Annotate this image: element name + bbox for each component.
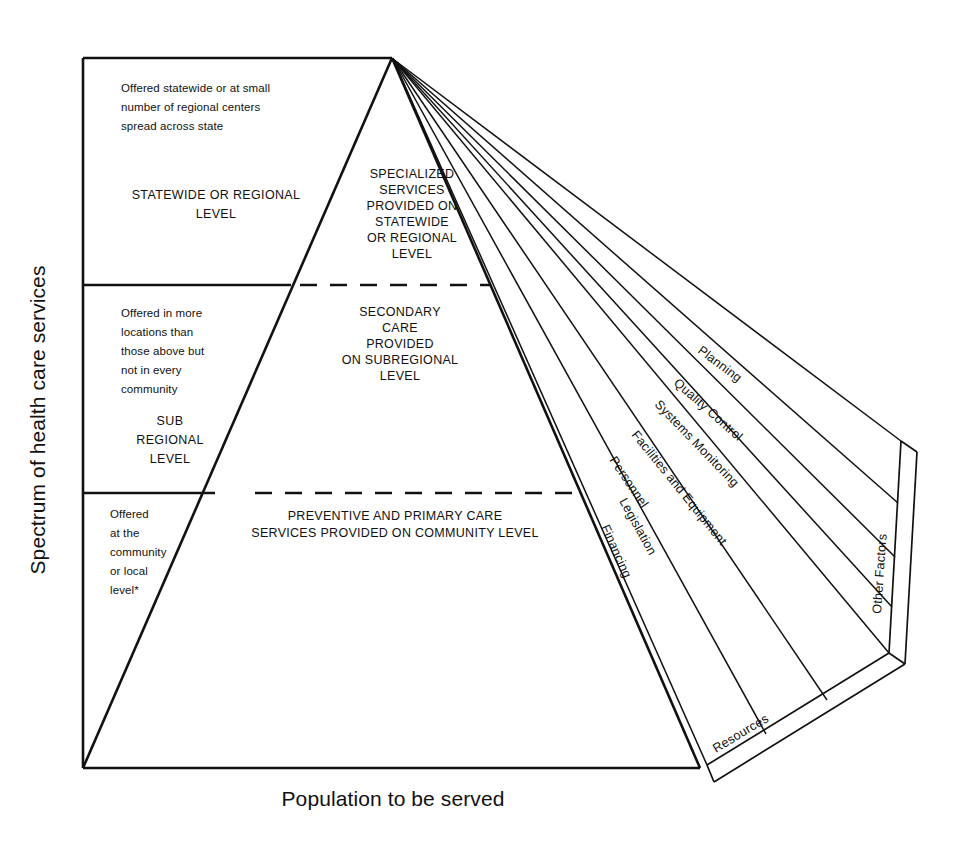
tier-statewide-core-line-4: STATEWIDE: [375, 215, 449, 229]
tier-statewide: Offered statewide or at small number of …: [121, 82, 457, 261]
pyramid-right-edge: [392, 58, 700, 768]
fan-ray-1: [393, 59, 901, 441]
spectrum-frame: [83, 58, 700, 768]
tier-statewide-level-line-2: LEVEL: [196, 207, 237, 221]
band-label-resources: Resources: [710, 711, 771, 755]
pyramid-fan-figure: Offered statewide or at small number of …: [0, 0, 971, 847]
other-factors-top-cap: [901, 441, 917, 452]
tier-subregional-desc-line-4: not in every: [121, 364, 182, 376]
tier-statewide-core-line-2: SERVICES: [379, 183, 444, 197]
tier-community-desc-line-2: at the: [110, 527, 139, 539]
resources-outer-edge: [714, 664, 905, 782]
tier-community-core-line-1: PREVENTIVE AND PRIMARY CARE: [288, 509, 503, 523]
fan-rays: [393, 59, 901, 765]
tier-subregional-core-line-5: LEVEL: [380, 369, 420, 383]
tier-statewide-core-line-1: SPECIALIZED: [370, 167, 455, 181]
tier-community-core-line-2: SERVICES PROVIDED ON COMMUNITY LEVEL: [251, 526, 538, 540]
tier-subregional-level-line-2: REGIONAL: [136, 433, 203, 447]
fan-ray-3: [393, 59, 895, 557]
fan-label-financing: Financing: [598, 523, 634, 581]
tier-subregional-core-line-4: ON SUBREGIONAL: [342, 353, 459, 367]
other-factors-outer-edge: [905, 452, 917, 664]
pyramid-outline: [83, 58, 700, 768]
fan-right-inner-edge: [889, 441, 901, 653]
tier-community-desc-line-4: or local: [110, 565, 148, 577]
pyramid-left-edge: [83, 58, 392, 768]
tier-subregional-desc-line-3: those above but: [121, 345, 205, 357]
diagram-root: Offered statewide or at small number of …: [0, 0, 971, 847]
tier-statewide-level-line-1: STATEWIDE OR REGIONAL: [132, 188, 301, 202]
tier-subregional-core-line-2: CARE: [382, 321, 418, 335]
tier-subregional-core-line-1: SECONDARY: [359, 305, 441, 319]
fan-ray-5: [393, 59, 889, 653]
x-axis-label: Population to be served: [282, 787, 505, 810]
fan-bottom-inner-edge: [707, 653, 889, 765]
tier-statewide-core-line-6: LEVEL: [392, 247, 432, 261]
tier-subregional-level-line-1: SUB: [157, 414, 184, 428]
tier-statewide-desc-line-3: spread across state: [121, 120, 223, 132]
tier-statewide-core-line-5: OR REGIONAL: [367, 231, 457, 245]
fan-sector-labels: Planning Quality Control Systems Monitor…: [598, 343, 745, 580]
tier-community-desc-line-1: Offered: [110, 508, 149, 520]
tier-subregional: Offered in more locations than those abo…: [121, 305, 458, 466]
tier-subregional-level-line-3: LEVEL: [150, 452, 191, 466]
tier-subregional-desc-line-1: Offered in more: [121, 307, 202, 319]
y-axis-label: Spectrum of health care services: [26, 265, 49, 574]
tier-community-desc-line-3: community: [110, 546, 167, 558]
tier-community: Offered at the community or local level*…: [110, 508, 539, 596]
fan-ray-6: [393, 59, 827, 700]
tier-subregional-core-line-3: PROVIDED: [366, 337, 434, 351]
tier-subregional-desc-line-5: community: [121, 383, 178, 395]
tier-statewide-core-line-3: PROVIDED ON: [367, 199, 458, 213]
resources-left-cap: [707, 765, 714, 782]
fan-label-planning: Planning: [695, 343, 744, 385]
tier-statewide-desc-line-1: Offered statewide or at small: [121, 82, 270, 94]
other-factors-bottom-cap: [889, 653, 905, 664]
tier-statewide-desc-line-2: number of regional centers: [121, 101, 261, 113]
tier-subregional-desc-line-2: locations than: [121, 326, 193, 338]
fan-ray-7: [393, 59, 766, 734]
tier-community-desc-line-5: level*: [110, 584, 139, 596]
